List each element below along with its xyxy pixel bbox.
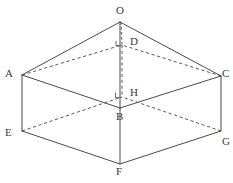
edge-EH xyxy=(22,97,122,131)
vertex-label-E: E xyxy=(5,127,12,138)
vertex-label-B: B xyxy=(116,111,124,122)
edge-GF xyxy=(120,131,221,164)
vertex-label-D: D xyxy=(130,36,138,47)
vertex-label-A: A xyxy=(5,68,13,79)
vertex-label-G: G xyxy=(222,136,230,147)
vertex-label-F: F xyxy=(116,166,122,177)
edge-EF xyxy=(22,131,120,164)
edge-AD xyxy=(22,45,122,75)
right-angle-marker-H xyxy=(116,93,122,98)
altitude-O-to-H xyxy=(121,22,122,45)
tick-marker-D xyxy=(116,41,122,46)
vertex-label-C: C xyxy=(222,68,230,79)
vertex-label-H: H xyxy=(130,87,138,98)
figure-canvas xyxy=(0,0,233,183)
edge-GH xyxy=(122,97,221,131)
edge-OA xyxy=(22,22,120,75)
geometry-figure: O D A C H B E G F xyxy=(0,0,233,183)
vertex-label-O: O xyxy=(116,5,124,16)
